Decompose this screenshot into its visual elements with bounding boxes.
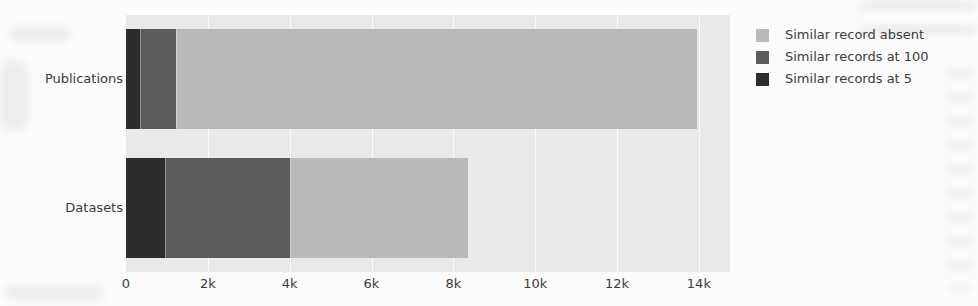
x-tick-label: 6k: [342, 276, 402, 292]
page: { "figure": { "kind": "scanned grayscale…: [0, 0, 978, 306]
legend-item: Similar records at 5: [756, 68, 929, 90]
x-tick-label: 12k: [587, 276, 647, 292]
bar-segment: [290, 158, 468, 258]
stacked-bar-chart: PublicationsDatasets 02k4k6k8k10k12k14k …: [0, 0, 978, 306]
legend-label: Similar record absent: [785, 27, 924, 43]
x-tick-label: 10k: [505, 276, 565, 292]
legend-label: Similar records at 100: [785, 49, 929, 65]
x-tick-label: 8k: [423, 276, 483, 292]
legend: Similar record absentSimilar records at …: [756, 24, 929, 90]
legend-item: Similar records at 100: [756, 46, 929, 68]
x-tick-label: 4k: [260, 276, 320, 292]
x-tick-label: 14k: [669, 276, 729, 292]
scan-artifact: [948, 70, 972, 290]
gridline: [699, 15, 700, 272]
x-tick-label: 0: [96, 276, 156, 292]
legend-item: Similar record absent: [756, 24, 929, 46]
legend-swatch: [756, 29, 769, 42]
legend-swatch: [756, 73, 769, 86]
scan-artifact: [4, 286, 104, 300]
bar-segment: [126, 29, 140, 129]
category-label: Publications: [0, 71, 123, 87]
scan-artifact: [10, 26, 70, 42]
bar-segment: [165, 158, 290, 258]
category-label: Datasets: [0, 200, 123, 216]
legend-label: Similar records at 5: [785, 71, 912, 87]
bar-segment: [176, 29, 698, 129]
bar-publications: [126, 29, 697, 129]
x-tick-label: 2k: [178, 276, 238, 292]
plot-area: [126, 15, 730, 272]
bar-datasets: [126, 158, 468, 258]
legend-swatch: [756, 51, 769, 64]
bar-segment: [140, 29, 176, 129]
bar-segment: [126, 158, 165, 258]
